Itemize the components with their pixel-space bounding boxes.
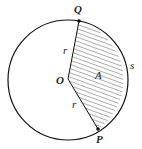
- label-area: A: [94, 69, 102, 81]
- label-radius-top: r: [63, 44, 68, 56]
- sector-diagram: Q P O A s r r: [0, 0, 142, 149]
- label-p: P: [96, 133, 103, 145]
- point-p: [96, 127, 100, 131]
- label-radius-bottom: r: [72, 98, 77, 110]
- label-o: O: [56, 74, 64, 86]
- label-q: Q: [74, 3, 82, 15]
- label-arc-s: s: [130, 59, 134, 71]
- point-q: [77, 19, 81, 23]
